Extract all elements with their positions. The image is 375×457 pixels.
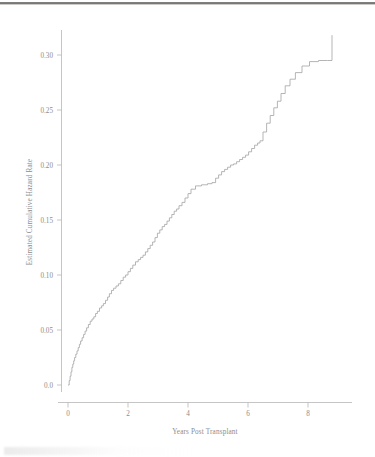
y-tick-label: 0.05: [40, 327, 53, 335]
x-tick-label: 4: [186, 410, 190, 418]
y-tick-label: 0.25: [40, 107, 53, 115]
y-tick-label: 0.10: [40, 272, 53, 280]
y-axis-ticks: 0.00.050.100.150.200.250.30: [40, 52, 61, 390]
x-axis-ticks: 02468: [66, 403, 310, 419]
x-axis: 02468: [58, 403, 352, 419]
scan-bottom-artifact: [4, 447, 194, 455]
y-tick-label: 0.0: [44, 382, 53, 390]
x-tick-label: 6: [246, 410, 250, 418]
y-tick-label: 0.20: [40, 162, 53, 170]
x-axis-title: Years Post Transplant: [172, 428, 238, 436]
x-tick-label: 2: [126, 410, 130, 418]
hazard-curve-line: [68, 35, 332, 385]
x-tick-label: 8: [306, 410, 310, 418]
y-axis-title: Estimated Cumulative Hazard Rate: [26, 159, 34, 265]
y-tick-label: 0.15: [40, 217, 53, 225]
figure-panel: 0.00.050.100.150.200.250.30 02468 Years …: [0, 0, 375, 457]
y-tick-label: 0.30: [40, 52, 53, 60]
y-axis: 0.00.050.100.150.200.250.30: [40, 30, 61, 392]
cumulative-hazard-chart: 0.00.050.100.150.200.250.30 02468 Years …: [0, 0, 375, 457]
x-tick-label: 0: [66, 410, 70, 418]
